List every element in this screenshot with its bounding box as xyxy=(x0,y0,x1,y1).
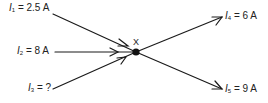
equals-sign: = xyxy=(23,45,34,56)
equals-sign: = xyxy=(231,10,242,21)
junction-node xyxy=(132,48,139,55)
current-value: 8 A xyxy=(35,45,49,56)
current-label-i3: I3 = ? xyxy=(28,82,51,96)
current-value: 2.5 A xyxy=(27,2,50,13)
equals-sign: = xyxy=(15,2,26,13)
junction-label: X xyxy=(133,37,139,47)
current-label-i4: I4 = 6 A xyxy=(225,10,257,24)
current-line-i5 xyxy=(136,52,222,89)
current-label-i1: I1 = 2.5 A xyxy=(9,2,49,16)
equals-sign: = xyxy=(34,82,45,93)
current-label-i2: I2 = 8 A xyxy=(17,45,49,59)
current-value: 9 A xyxy=(243,83,257,94)
current-line-i4 xyxy=(136,17,222,52)
equals-sign: = xyxy=(231,83,242,94)
current-value: ? xyxy=(46,82,52,93)
current-value: 6 A xyxy=(243,10,257,21)
current-label-i5: I5 = 9 A xyxy=(225,83,257,97)
